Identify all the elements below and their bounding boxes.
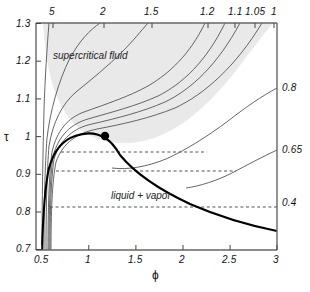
y-axis-ticks xyxy=(36,24,41,250)
isotherm-label-1.5: 1.5 xyxy=(144,6,159,17)
isotherm-label-0.65: 0.65 xyxy=(282,144,302,155)
supercritical-region xyxy=(36,23,277,143)
x-tick-label-1.5: 1.5 xyxy=(128,254,143,265)
isobar-0.65-curve xyxy=(186,150,277,188)
x-axis-ticks xyxy=(42,245,277,250)
y-tick-label-1.2: 1.2 xyxy=(16,55,31,66)
y-tick-label-1.1: 1.1 xyxy=(16,93,31,104)
y-axis-title: τ xyxy=(4,130,9,144)
isotherm-label-0.8: 0.8 xyxy=(282,82,297,93)
isotherm-label-1.1: 1.1 xyxy=(228,6,243,17)
annotation-liquid-vapor: liquid + vapor xyxy=(111,190,171,201)
isotherm-label-1.05: 1.05 xyxy=(245,6,265,17)
y-tick-label-0.9: 0.9 xyxy=(16,168,31,179)
y-tick-label-0.8: 0.8 xyxy=(16,206,31,217)
isotherm-label-5: 5 xyxy=(49,6,55,17)
isotherm-label-0.4: 0.4 xyxy=(282,197,297,208)
x-tick-label-3: 3 xyxy=(273,254,279,265)
annotation-supercritical-fluid: supercritical fluid xyxy=(53,50,127,61)
isotherm-label-1.2: 1.2 xyxy=(200,6,215,17)
x-tick-label-2.5: 2.5 xyxy=(222,254,237,265)
phase-diagram-figure: 1.3 1.2 1.1 1 0.9 0.8 0.7 0.5 1 1.5 2 2.… xyxy=(0,0,310,292)
x-tick-label-2: 2 xyxy=(179,254,185,265)
x-tick-label-1: 1 xyxy=(85,254,91,265)
x-tick-label-0.5: 0.5 xyxy=(34,254,49,265)
isotherm-label-2: 2 xyxy=(100,6,106,17)
isotherm-label-1: 1 xyxy=(271,6,277,17)
y-tick-label-1.3: 1.3 xyxy=(16,18,31,29)
x-axis-title: ϕ xyxy=(152,268,159,282)
y-tick-label-1: 1 xyxy=(25,131,31,142)
critical-point-marker xyxy=(101,132,109,140)
y-tick-label-0.7: 0.7 xyxy=(16,243,31,254)
chart-canvas xyxy=(0,0,310,292)
